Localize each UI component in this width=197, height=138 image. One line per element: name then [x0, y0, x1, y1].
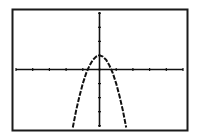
graph-canvas	[0, 0, 197, 138]
calculator-graph-screen	[0, 0, 197, 138]
